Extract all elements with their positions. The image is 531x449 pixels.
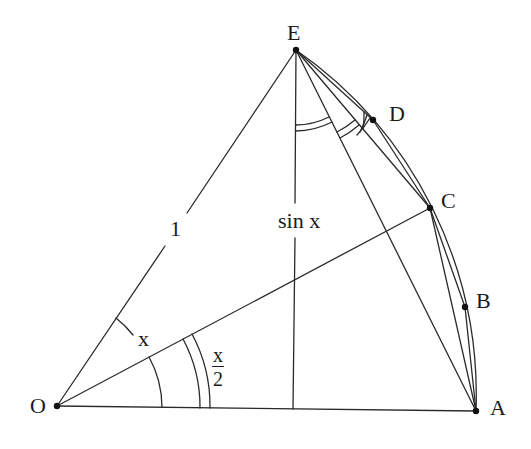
sin-x-line-lower xyxy=(293,238,295,409)
label-angle-half-numerator: x xyxy=(212,345,224,367)
point-D xyxy=(370,117,376,123)
label-angle-x: x xyxy=(138,328,149,350)
label-point-A: A xyxy=(490,397,506,419)
segment-OC xyxy=(57,208,430,406)
angle-x-arc-upper xyxy=(116,318,133,335)
angle-half-arc-outer xyxy=(192,334,210,408)
angle-half-arc-inner xyxy=(183,339,200,408)
segment-CB xyxy=(430,208,465,307)
sin-x-line-upper xyxy=(295,50,296,203)
geometry-svg xyxy=(0,0,531,449)
label-point-D: D xyxy=(389,103,405,125)
angle-E-EA-EC-arc-2 xyxy=(340,125,359,138)
point-B xyxy=(462,304,468,310)
point-E xyxy=(293,47,299,53)
point-C xyxy=(427,205,433,211)
segment-ED xyxy=(296,50,373,120)
label-angle-half: x 2 xyxy=(212,345,224,389)
point-O xyxy=(54,403,60,409)
angle-E-vert-EA-arc-1 xyxy=(296,117,329,125)
point-A xyxy=(473,408,479,414)
segment-OE-upper xyxy=(187,50,296,213)
segment-EA xyxy=(296,50,476,411)
segment-OA xyxy=(57,406,476,411)
segment-DC xyxy=(373,120,430,208)
label-point-E: E xyxy=(287,22,300,44)
diagram-canvas: E D C B A O 1 sin x x x 2 xyxy=(0,0,531,449)
label-sin-x: sin x xyxy=(278,210,320,232)
label-radius: 1 xyxy=(170,218,181,240)
label-point-O: O xyxy=(30,395,46,417)
label-point-C: C xyxy=(441,190,456,212)
label-angle-half-denominator: 2 xyxy=(212,367,224,389)
label-point-B: B xyxy=(476,290,491,312)
angle-x-arc-lower xyxy=(149,357,162,407)
segment-CA xyxy=(430,208,476,411)
